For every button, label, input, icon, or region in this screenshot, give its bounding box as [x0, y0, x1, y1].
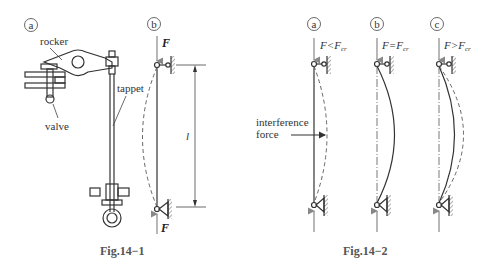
top-pin-c [437, 62, 442, 67]
top-roller-c [447, 62, 451, 66]
valve-guide-upper [25, 72, 65, 77]
bottom-wall-hatch-a [324, 195, 328, 216]
top-wall-hatch-c [452, 56, 456, 74]
tappet-follower-base [102, 200, 122, 205]
valve-guide-lower [25, 83, 65, 88]
lower-guide-right [118, 188, 129, 196]
condition-a: F<Fcr [319, 39, 347, 53]
valve-guide-side [55, 77, 65, 83]
rocker-leader [50, 48, 62, 60]
fig1-panel-b-label: b [151, 18, 157, 30]
top-wall-hatch-a [327, 56, 331, 74]
roller-inner [107, 213, 117, 223]
tappet-label: tappet [117, 82, 144, 94]
tappet-top-nut [109, 51, 115, 57]
column-further-buckled-c [439, 66, 464, 203]
tappet-follower-body [106, 184, 118, 200]
top-pin-b [375, 62, 380, 67]
column-buckled-b [377, 66, 395, 203]
bottom-support-a [316, 198, 324, 212]
lower-guide-left [90, 188, 100, 196]
dim-arrow-top [193, 65, 197, 72]
top-wall-hatch [171, 56, 175, 74]
top-roller-b [385, 62, 389, 66]
bottom-support-b [379, 198, 387, 212]
rocker-label: rocker [40, 35, 68, 47]
valve-leader [53, 104, 58, 118]
bottom-support-c [441, 198, 449, 212]
diagram-canvas: a rocker valve tappet b [0, 0, 491, 268]
fig2-panel-b-label: b [374, 18, 380, 30]
valve-label: valve [45, 120, 69, 132]
top-roller [166, 63, 170, 67]
roller-outer [103, 209, 121, 227]
rocker-pivot [72, 56, 84, 68]
fig1-panel-a: a rocker valve tappet [25, 19, 144, 228]
top-pin-a [312, 62, 317, 67]
fig2-panel-a-label: a [312, 18, 317, 30]
bottom-wall-hatch-c [449, 195, 453, 216]
fig1-caption: Fig.14−1 [100, 244, 145, 258]
force-top-label: F [161, 36, 170, 50]
condition-b: F=Fcr [381, 39, 409, 53]
valve-head [46, 95, 54, 103]
column-buckled-c [439, 66, 455, 203]
fig2-panel-c: c F>Fcr [431, 18, 472, 233]
top-pin [155, 63, 160, 68]
length-label: l [186, 130, 189, 142]
fig2: a F<Fcr interference force b F=Fcr [256, 18, 471, 259]
bottom-support-triangle [159, 202, 168, 216]
fig2-panel-c-label: c [435, 18, 440, 30]
condition-c: F>Fcr [443, 39, 471, 53]
fig2-panel-b: b F=Fcr [371, 18, 410, 233]
force-bottom-label: F [160, 221, 169, 235]
interference-label-2: force [256, 128, 279, 140]
bottom-wall-hatch [168, 199, 172, 219]
column-buckled [143, 67, 158, 207]
top-roller-a [322, 62, 326, 66]
fig2-panel-a: a F<Fcr [308, 18, 348, 233]
interference-label-1: interference [256, 116, 309, 128]
top-wall-hatch-b [390, 56, 394, 74]
fig1-panel-a-label: a [29, 19, 34, 31]
fig2-caption: Fig.14−2 [343, 244, 388, 258]
bottom-wall-hatch-b [387, 195, 391, 216]
tappet-leader [113, 96, 126, 126]
dim-arrow-bottom [193, 200, 197, 207]
